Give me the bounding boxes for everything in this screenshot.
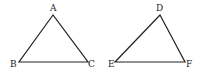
- triangle-def: [115, 15, 185, 62]
- vertex-label-b: B: [10, 59, 17, 69]
- triangle-diagram: A B C D E F: [0, 0, 200, 73]
- vertex-label-d: D: [156, 3, 163, 13]
- triangle-abc: [19, 15, 88, 62]
- vertex-label-f: F: [186, 59, 192, 69]
- vertex-label-e: E: [108, 59, 115, 69]
- vertex-label-a: A: [49, 3, 57, 13]
- vertex-label-c: C: [88, 59, 95, 69]
